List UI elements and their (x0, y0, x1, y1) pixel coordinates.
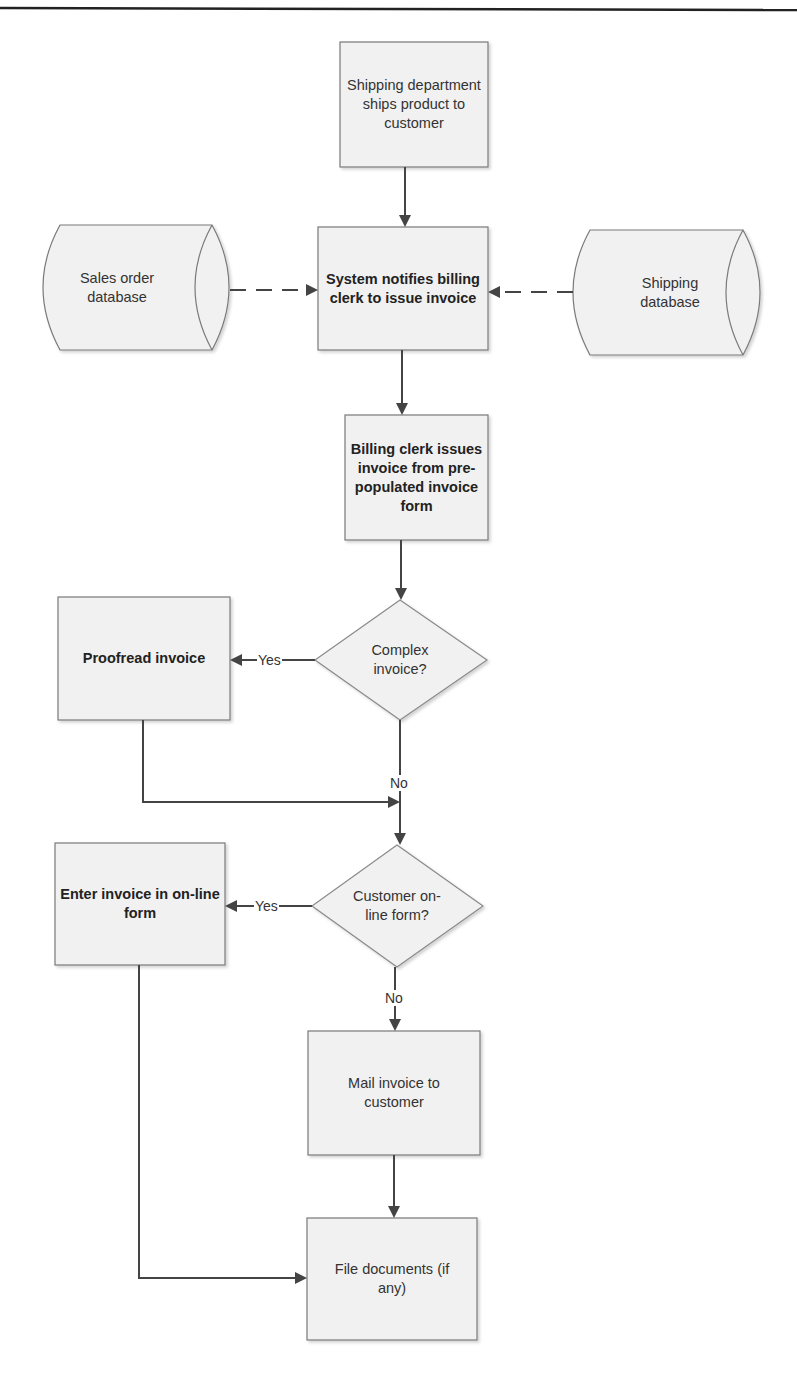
label-ship-product: Shipping department ships product to cus… (343, 42, 485, 167)
edge-label-complex-no: No (389, 775, 409, 791)
label-mail-invoice: Mail invoice to customer (318, 1031, 470, 1155)
label-issue-invoice: Billing clerk issues invoice from pre-po… (348, 415, 485, 540)
edge-label-online-no: No (384, 990, 404, 1006)
label-sales-db: Sales order database (62, 225, 172, 350)
label-shipping-db: Shipping database (615, 230, 725, 355)
label-system-notify: System notifies billing clerk to issue i… (321, 227, 485, 350)
label-file-docs: File documents (if any) (320, 1218, 464, 1340)
edge-label-complex-yes: Yes (257, 652, 282, 668)
label-proofread: Proofread invoice (60, 597, 228, 720)
label-enter-online: Enter invoice in on-line form (58, 843, 222, 965)
edge-proofread-to-merge (143, 720, 398, 802)
edge-enter-to-file (139, 965, 305, 1278)
label-complex-decision: Complex invoice? (355, 630, 445, 690)
page-top-rule (0, 8, 797, 10)
label-online-decision: Customer on-line form? (347, 876, 447, 936)
edge-label-online-yes: Yes (254, 898, 279, 914)
